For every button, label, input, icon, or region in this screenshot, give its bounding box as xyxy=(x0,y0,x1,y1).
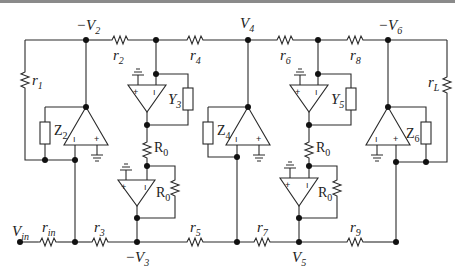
label-r7: r7 xyxy=(257,219,269,238)
label-r6: r6 xyxy=(280,47,291,66)
svg-text:+: + xyxy=(94,134,99,144)
svg-text:ı: ı xyxy=(144,182,147,192)
label-v2: −V2 xyxy=(76,17,100,36)
svg-text:+: + xyxy=(121,182,126,192)
label-r0-b: R0 xyxy=(156,185,170,203)
label-y3: Y3 xyxy=(168,91,181,110)
svg-text:ı: ı xyxy=(153,87,156,97)
label-r3: r3 xyxy=(94,219,105,238)
svg-text:ı: ı xyxy=(235,134,238,144)
label-r4: r4 xyxy=(190,47,201,66)
svg-text:ı: ı xyxy=(375,134,378,144)
label-v3: −V3 xyxy=(125,249,149,268)
label-r5: r5 xyxy=(190,219,201,238)
circuit-diagram: ı + + ı + ı xyxy=(0,0,469,275)
resistor-r1 xyxy=(21,40,75,160)
label-z4: Z4 xyxy=(217,123,231,141)
opamp-z6: ı + xyxy=(366,40,431,242)
svg-text:+: + xyxy=(393,134,398,144)
label-rin: rin xyxy=(42,219,56,238)
opamp-z2: ı + xyxy=(40,40,108,242)
label-y5: Y5 xyxy=(331,91,344,110)
svg-text:+: + xyxy=(256,134,261,144)
svg-text:ı: ı xyxy=(315,87,318,97)
svg-text:ı: ı xyxy=(306,180,309,190)
label-v6: −V6 xyxy=(378,17,402,36)
label-r8: r8 xyxy=(350,47,361,66)
label-r0-c: R0 xyxy=(316,140,330,158)
label-rl: rL xyxy=(428,74,440,93)
svg-text:+: + xyxy=(295,87,300,97)
opamp-y3-lower: + ı xyxy=(118,164,179,242)
label-r1: r1 xyxy=(32,72,43,91)
label-r0-d: R0 xyxy=(318,185,332,203)
label-z2: Z2 xyxy=(54,123,68,141)
label-r0-a: R0 xyxy=(154,140,168,158)
label-v5: V5 xyxy=(292,249,306,268)
junctions xyxy=(17,37,429,245)
label-vin: Vin xyxy=(12,223,29,242)
svg-text:+: + xyxy=(133,87,138,97)
svg-text:ı: ı xyxy=(73,134,76,144)
opamp-z4: ı + xyxy=(203,40,270,242)
label-r9: r9 xyxy=(350,219,361,238)
label-r2: r2 xyxy=(113,47,124,66)
label-v4: V4 xyxy=(240,15,254,34)
svg-text:+: + xyxy=(285,180,290,190)
